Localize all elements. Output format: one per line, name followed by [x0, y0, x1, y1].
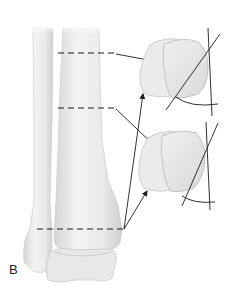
cross-section-bottom-tibia — [161, 131, 205, 191]
fibula-shaft — [24, 28, 53, 273]
panel-label: B — [9, 262, 18, 277]
tibia-shaft — [54, 28, 122, 250]
top-fade — [20, 24, 110, 34]
cross-section-bottom — [139, 122, 218, 210]
angle-line-vertical-top — [208, 28, 212, 116]
cross-section-top — [140, 28, 220, 116]
cross-section-top-tibia — [163, 39, 208, 98]
angle-line-vertical-bottom — [206, 122, 210, 210]
ankle-diagram — [0, 0, 235, 293]
pointer-arrow-3b — [124, 191, 147, 229]
